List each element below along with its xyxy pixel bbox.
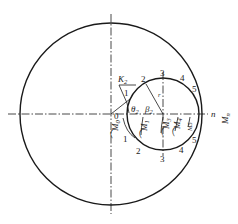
upper-point-5: 5 [192,84,197,94]
moment-label-1: ⌒M1 [139,120,150,140]
svg-text:⌒M4: ⌒M4 [172,118,183,139]
moment-label-5: M5 [186,122,193,132]
moment-label-4: ⌒M4 [172,118,183,139]
svg-text:⌒M1: ⌒M1 [139,120,150,140]
lower-point-4: 4 [179,145,184,155]
upper-point-4: 4 [180,73,185,83]
lower-point-3: 3 [160,154,165,164]
upper-point-3: 3 [160,68,165,78]
lower-point-2: 2 [136,146,141,156]
svg-text:M5: M5 [186,122,193,132]
radius-label: r [158,91,161,98]
upper-point-1: 1 [124,88,129,98]
beta-label: β2 [144,104,153,115]
axis-mn-label: Mn [220,113,231,125]
svg-text:⌒M0: ⌒M0 [110,120,121,141]
svg-text:Mn: Mn [220,113,231,125]
lower-point-5: 5 [192,135,197,145]
origin-label: 0 [114,111,119,121]
upper-point-2: 2 [141,74,146,84]
k2-label: K2 [117,74,128,85]
axis-n-label: n [211,109,216,119]
moment-label-0: ⌒M0 [110,120,121,141]
cam-profile-diagram: K2 0 θ2 β2 r 1 2 3 4 5 1 2 3 4 5 ⌒M0 ⌒M1… [0,0,238,224]
theta-label: θ2 [131,104,139,115]
lower-point-1: 1 [123,134,128,144]
